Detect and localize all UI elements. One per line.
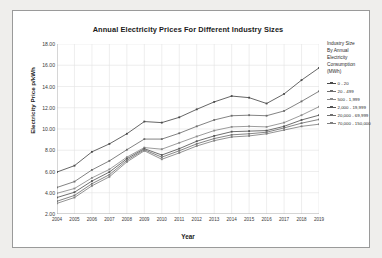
y-tick-label: 18.00 — [29, 41, 55, 47]
legend-item[interactable]: 2,000 - 19,999 — [327, 104, 382, 111]
legend-swatch-icon — [327, 89, 336, 94]
x-axis-title: Year — [57, 233, 319, 240]
legend-item[interactable]: 500 - 1,999 — [327, 96, 382, 103]
legend-item-label: 20 - 499 — [338, 89, 354, 94]
legend-item[interactable]: 20,000 - 69,999 — [327, 112, 382, 119]
y-axis-ticks: 18.0016.0014.0012.0010.008.006.004.002.0… — [25, 44, 55, 214]
y-tick-label: 10.00 — [29, 126, 55, 132]
legend-swatch-icon — [327, 81, 336, 86]
legend-swatch-icon — [327, 113, 336, 118]
chart-card: Annual Electricity Prices For Different … — [12, 10, 370, 248]
series-line — [57, 114, 319, 198]
legend-swatch-icon — [327, 105, 336, 110]
legend: Industry Size By Annual Electricity Cons… — [327, 41, 382, 128]
legend-item[interactable]: 20 - 499 — [327, 88, 382, 95]
legend-item-label: 70,000 - 150,000 — [338, 121, 371, 126]
legend-item-label: 500 - 1,999 — [338, 97, 360, 102]
y-tick-label: 12.00 — [29, 105, 55, 111]
y-tick-label: 6.00 — [29, 169, 55, 175]
legend-items: 0 - 2020 - 499500 - 1,9992,000 - 19,9992… — [327, 80, 382, 127]
legend-item-label: 2,000 - 19,999 — [338, 105, 366, 110]
plot-svg — [57, 44, 319, 214]
legend-title: Industry Size By Annual Electricity Cons… — [327, 41, 382, 76]
screenshot-root: Annual Electricity Prices For Different … — [0, 0, 382, 258]
x-axis-ticks: 2004200520062007200820092010201120122013… — [57, 217, 319, 229]
legend-item[interactable]: 70,000 - 150,000 — [327, 120, 382, 127]
legend-item-label: 20,000 - 69,999 — [338, 113, 369, 118]
y-tick-label: 14.00 — [29, 84, 55, 90]
legend-swatch-icon — [327, 121, 336, 126]
plot-area — [57, 44, 319, 214]
y-tick-label: 16.00 — [29, 62, 55, 68]
legend-item-label: 0 - 20 — [338, 81, 349, 86]
y-tick-label: 4.00 — [29, 190, 55, 196]
y-tick-label: 8.00 — [29, 147, 55, 153]
series-line — [57, 123, 319, 204]
chart-title: Annual Electricity Prices For Different … — [53, 25, 323, 34]
legend-item[interactable]: 0 - 20 — [327, 80, 382, 87]
series-line — [57, 67, 319, 173]
legend-swatch-icon — [327, 97, 336, 102]
x-tick-label: 2019 — [308, 217, 330, 222]
